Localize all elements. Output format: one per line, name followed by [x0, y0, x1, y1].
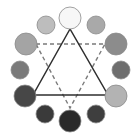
dashed-triangle	[36, 44, 105, 108]
color-circle-left-mid	[11, 61, 29, 79]
color-circle-lower-right	[87, 105, 105, 123]
color-circle-lower-left	[36, 105, 54, 123]
color-wheel-diagram	[0, 0, 140, 140]
color-circle-left-lower	[14, 85, 36, 107]
color-circle-left-upper	[15, 33, 37, 55]
solid-triangle	[33, 29, 108, 95]
color-circles	[11, 7, 130, 132]
color-circle-top	[59, 7, 81, 29]
color-circle-upper-left	[37, 16, 55, 34]
color-circle-right-lower	[105, 85, 127, 107]
color-circle-right-mid	[112, 61, 130, 79]
color-circle-bottom	[59, 110, 81, 132]
color-circle-upper-right	[87, 16, 105, 34]
color-circle-right-upper	[105, 33, 127, 55]
